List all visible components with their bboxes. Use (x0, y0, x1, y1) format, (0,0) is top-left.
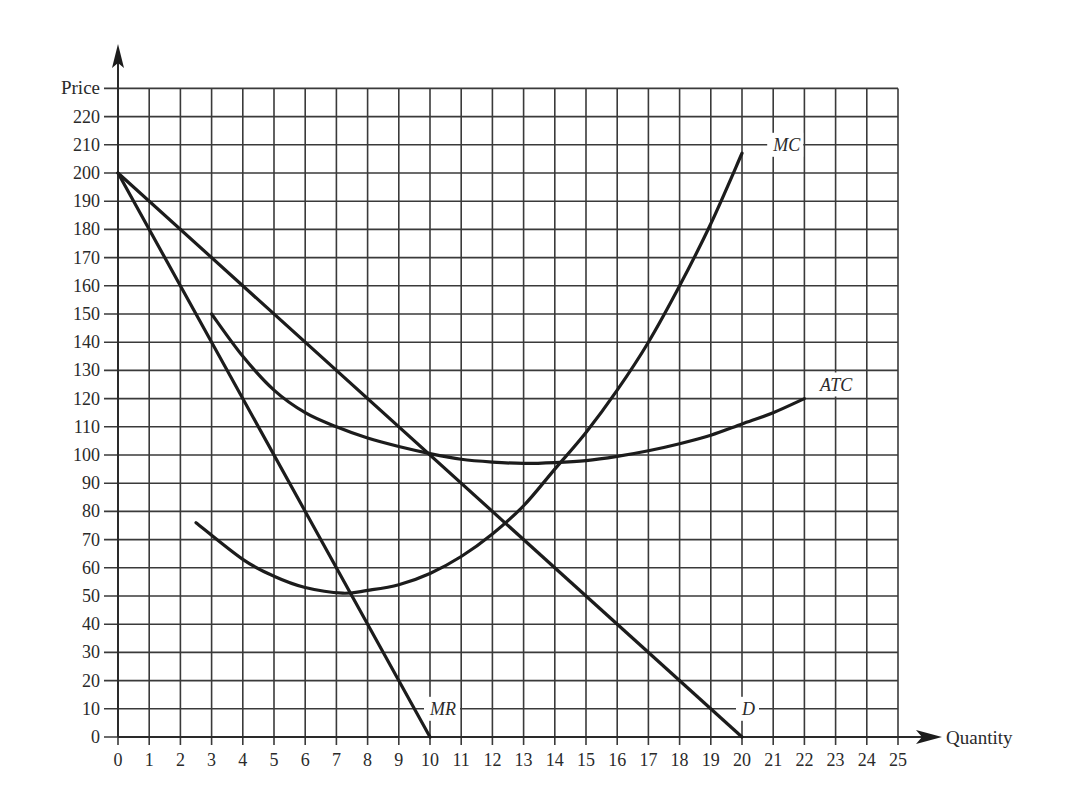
x-tick-label: 11 (453, 750, 470, 770)
y-tick-label: 130 (73, 360, 100, 380)
x-tick-label: 4 (238, 750, 247, 770)
x-tick-label: 16 (608, 750, 626, 770)
curve-mc (196, 153, 742, 593)
x-tick-label: 2 (176, 750, 185, 770)
x-tick-label: 6 (301, 750, 310, 770)
x-tick-label: 12 (483, 750, 501, 770)
y-tick-label: 0 (91, 727, 100, 747)
curve-label-mc: MC (772, 135, 801, 155)
y-tick-label: 200 (73, 163, 100, 183)
y-tick-label: 50 (82, 586, 100, 606)
curve-label-d: D (741, 699, 755, 719)
y-tick-label: 190 (73, 191, 100, 211)
y-tick-label: 220 (73, 107, 100, 127)
axes: 0102030405060708090100110120130140150160… (61, 44, 1013, 770)
x-tick-label: 21 (764, 750, 782, 770)
x-tick-label: 17 (639, 750, 657, 770)
y-tick-label: 120 (73, 389, 100, 409)
grid (104, 88, 898, 745)
chart-canvas: 0102030405060708090100110120130140150160… (0, 0, 1065, 804)
x-tick-label: 15 (577, 750, 595, 770)
y-tick-label: 60 (82, 558, 100, 578)
y-tick-label: 140 (73, 332, 100, 352)
x-tick-label: 10 (421, 750, 439, 770)
x-tick-label: 5 (270, 750, 279, 770)
y-tick-label: 180 (73, 219, 100, 239)
x-tick-label: 18 (671, 750, 689, 770)
x-tick-label: 13 (515, 750, 533, 770)
x-tick-label: 9 (394, 750, 403, 770)
y-tick-label: 150 (73, 304, 100, 324)
y-axis-title: Price (61, 77, 100, 98)
y-tick-label: 170 (73, 248, 100, 268)
y-tick-label: 110 (74, 417, 100, 437)
x-tick-label: 25 (889, 750, 907, 770)
curve-label-mr: MR (429, 699, 456, 719)
x-tick-label: 19 (702, 750, 720, 770)
y-tick-label: 40 (82, 614, 100, 634)
x-tick-label: 20 (733, 750, 751, 770)
y-tick-label: 10 (82, 699, 100, 719)
curve-label-atc: ATC (819, 375, 853, 395)
x-tick-label: 0 (114, 750, 123, 770)
x-tick-label: 3 (207, 750, 216, 770)
x-tick-label: 14 (546, 750, 564, 770)
x-tick-label: 1 (145, 750, 154, 770)
y-tick-label: 30 (82, 642, 100, 662)
x-tick-label: 23 (827, 750, 845, 770)
y-tick-label: 100 (73, 445, 100, 465)
y-tick-label: 210 (73, 135, 100, 155)
y-tick-label: 160 (73, 276, 100, 296)
x-tick-label: 7 (332, 750, 341, 770)
x-tick-label: 24 (858, 750, 876, 770)
x-tick-label: 22 (795, 750, 813, 770)
y-tick-label: 80 (82, 501, 100, 521)
y-tick-label: 20 (82, 671, 100, 691)
y-tick-label: 70 (82, 530, 100, 550)
y-tick-label: 90 (82, 473, 100, 493)
x-axis-title: Quantity (946, 727, 1013, 748)
x-tick-label: 8 (363, 750, 372, 770)
